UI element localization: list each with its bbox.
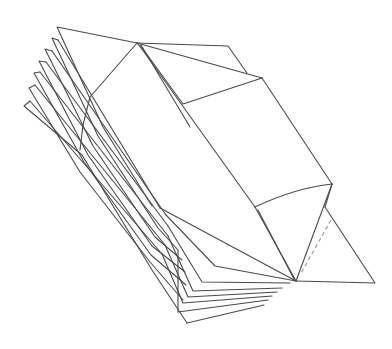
diagram-canvas xyxy=(0,0,392,349)
folded-paper-drawing xyxy=(0,0,392,349)
fan-layer-5 xyxy=(34,72,186,285)
center-fold xyxy=(296,184,332,281)
fan-layer-4 xyxy=(39,61,185,272)
bottom-layer-8 xyxy=(187,305,264,323)
main-body xyxy=(137,43,332,207)
fan-layer-2 xyxy=(52,38,178,250)
fan-layer-7 xyxy=(24,101,187,323)
top-fan-layers xyxy=(24,27,187,323)
right-triangle xyxy=(296,207,375,283)
right-long-edge xyxy=(262,78,332,184)
bottom-layer-3 xyxy=(168,226,290,283)
bottom-fan-layers xyxy=(160,208,296,323)
top-diagonal xyxy=(137,43,262,78)
body-bottom-curve xyxy=(255,184,332,207)
